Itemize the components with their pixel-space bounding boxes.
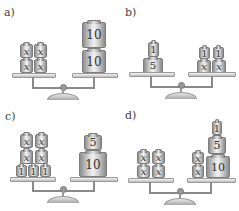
weight-5: 5 (143, 58, 163, 73)
weight-5: 5 (84, 135, 102, 150)
weight-x: x (20, 59, 33, 73)
scale-base (164, 198, 196, 205)
weight-5: 5 (208, 137, 226, 154)
weight-x: x (35, 150, 48, 164)
weight-x: x (20, 134, 33, 148)
scale-base (165, 92, 197, 99)
weight-x: x (20, 150, 33, 164)
weight-1: 1 (212, 121, 222, 135)
weight-x: x (192, 165, 204, 178)
weight-x: x (137, 165, 150, 178)
panel-label: c) (5, 110, 15, 123)
panel-c: c) x x x x 1 1 1 5 10 (0, 105, 119, 210)
weight-10: 10 (82, 22, 106, 48)
left-pan (12, 73, 56, 78)
scale-base (47, 196, 79, 203)
weight-10: 10 (206, 156, 230, 178)
weight-10: 10 (79, 152, 107, 177)
weight-x: x (35, 134, 48, 148)
panel-label: d) (125, 109, 136, 122)
weight-x: x (34, 59, 47, 73)
panel-b: b) 1 5 1 1 x x (120, 0, 239, 105)
weight-x: x (34, 44, 47, 58)
panel-label: a) (4, 6, 15, 19)
scale-base (47, 93, 79, 100)
weight-1: 1 (16, 165, 27, 177)
weight-x: x (152, 165, 165, 178)
left-pan (129, 72, 175, 77)
panel-d: d) x x x x x x 1 5 10 (120, 105, 239, 210)
weight-1: 1 (28, 165, 39, 177)
left-pan (128, 178, 174, 183)
weight-10: 10 (82, 50, 106, 73)
weight-1: 1 (148, 42, 159, 57)
weight-1: 1 (40, 165, 51, 177)
weight-x: x (20, 44, 33, 58)
panel-label: b) (125, 6, 136, 19)
panel-a: a) x x x x 10 10 (0, 0, 119, 105)
right-pan (72, 73, 118, 78)
